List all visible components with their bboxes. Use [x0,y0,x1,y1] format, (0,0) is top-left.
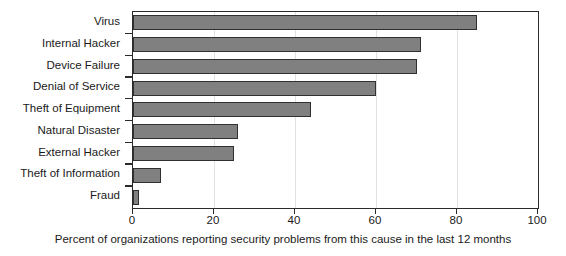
bar [133,146,234,161]
y-axis-label: Internal Hacker [42,33,120,55]
bar-row [133,99,311,121]
y-axis-tick-marks [132,11,142,207]
x-axis-tick-label: 0 [129,214,135,226]
bar-chart: VirusInternal HackerDevice FailureDenial… [0,0,566,256]
x-axis-tick-label: 60 [369,214,382,226]
x-axis-title: Percent of organizations reporting secur… [0,233,566,245]
plot-area [132,11,539,209]
bar [133,102,311,117]
y-axis-tick [125,120,132,121]
y-axis-label: External Hacker [38,142,120,164]
y-axis-label: Theft of Equipment [23,98,120,120]
y-axis-tick [125,55,132,56]
x-axis-tick-labels: 020406080100 [132,214,537,230]
y-axis-tick [125,33,132,34]
x-axis-tick-label: 20 [207,214,220,226]
y-axis-category-labels: VirusInternal HackerDevice FailureDenial… [0,11,126,207]
bar-row [133,56,417,78]
bar-row [133,34,421,56]
y-axis-tick [125,98,132,99]
x-axis-tick-label: 40 [288,214,301,226]
bar [133,37,421,52]
y-axis-label: Natural Disaster [38,120,120,142]
bar-row [133,77,376,99]
y-axis-label: Denial of Service [33,76,120,98]
bar-row [133,121,238,143]
y-axis-label: Theft of Information [20,163,120,185]
x-axis-tick-label: 100 [527,214,546,226]
bar [133,15,477,30]
x-axis-tick-label: 80 [450,214,463,226]
bar [133,81,376,96]
y-axis-tick [125,185,132,186]
bar-series [133,12,538,208]
bar [133,124,238,139]
bar [133,59,417,74]
y-axis-tick [125,76,132,77]
bar-row [133,12,477,34]
bar-row [133,143,234,165]
y-axis-label: Fraud [90,185,120,207]
y-axis-label: Virus [94,11,120,33]
y-axis-label: Device Failure [47,55,121,77]
y-axis-tick [125,163,132,164]
y-axis-tick [125,142,132,143]
